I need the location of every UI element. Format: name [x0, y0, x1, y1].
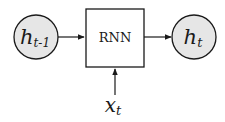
prev-hidden-subscript: t-1: [34, 36, 51, 50]
input-node: xt: [105, 93, 122, 118]
prev-hidden-state-node: ht-1: [14, 15, 58, 59]
input-base: x: [105, 93, 116, 117]
next-hidden-base: h: [184, 25, 198, 49]
next-hidden-subscript: t: [197, 35, 203, 50]
rnn-diagram: ht-1 RNN ht xt: [0, 0, 225, 122]
input-subscript: t: [116, 103, 122, 118]
prev-hidden-base: h: [20, 25, 34, 49]
next-hidden-state-node: ht: [172, 15, 216, 59]
rnn-cell-label: RNN: [99, 30, 132, 45]
rnn-cell-box: RNN: [86, 9, 144, 67]
